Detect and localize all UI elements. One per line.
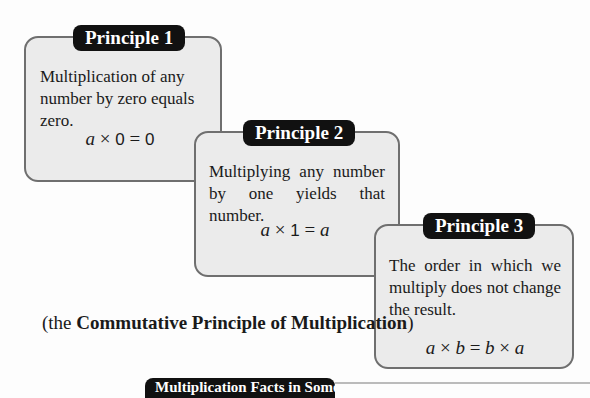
- section-label: Multiplication Facts in Some Bases: [145, 378, 335, 398]
- principle-2-formula: a × 1 = a: [215, 219, 375, 241]
- var-b: b: [485, 337, 495, 358]
- number-0: 0: [115, 130, 124, 149]
- equals-sign: =: [470, 337, 481, 358]
- var-a: a: [261, 219, 271, 240]
- principle-3-formula: a × b = b × a: [389, 337, 561, 359]
- section-divider: [335, 382, 590, 384]
- principle-1-formula: a × 0 = 0: [40, 128, 200, 150]
- principle-3-text: The order in which we multiply does not …: [389, 255, 561, 321]
- principle-2-label: Principle 2: [243, 120, 355, 146]
- var-b: b: [455, 337, 465, 358]
- equals-sign: =: [304, 219, 315, 240]
- principle-2-text: Multiplying any number by one yields tha…: [209, 161, 385, 227]
- times-sign: ×: [100, 128, 111, 149]
- var-a: a: [515, 337, 525, 358]
- principle-1-label: Principle 1: [73, 25, 185, 51]
- principle-1-text: Multiplication of any number by zero equ…: [40, 66, 208, 132]
- var-a: a: [86, 128, 96, 149]
- times-sign: ×: [275, 219, 286, 240]
- equals-sign: =: [130, 128, 141, 149]
- caption-open: (the: [42, 312, 76, 333]
- var-a: a: [426, 337, 436, 358]
- caption-close: ): [407, 312, 413, 333]
- times-sign: ×: [499, 337, 510, 358]
- times-sign: ×: [440, 337, 451, 358]
- number-1: 1: [290, 221, 299, 240]
- commutative-caption: (the Commutative Principle of Multiplica…: [42, 312, 414, 334]
- result-a: a: [320, 219, 330, 240]
- result-0: 0: [145, 130, 154, 149]
- caption-bold-term: Commutative Principle of Multiplication: [76, 312, 407, 333]
- principle-3-label: Principle 3: [423, 213, 535, 239]
